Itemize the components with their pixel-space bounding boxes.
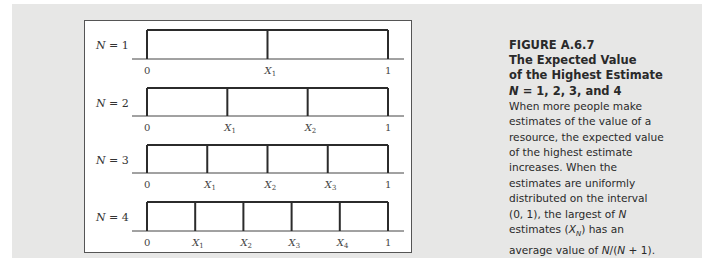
tick-label: X2 [304,122,317,135]
tick-label: 0 [144,122,150,133]
caption-line: resource, the expected value [509,130,689,145]
row-label: N = 3 [95,154,129,167]
tick-label: 1 [385,122,391,133]
caption-line: average value of N/(N + 1). [509,243,689,258]
caption-line: increases. When the [509,160,689,175]
tick-label: X2 [264,179,277,192]
tick-label: 0 [144,65,150,76]
tick-label: 1 [385,65,391,76]
tick-label: X2 [239,237,252,250]
tick-label: X3 [288,237,301,250]
caption-body: When more people makeestimates of the va… [509,99,689,258]
tick-label: 0 [144,179,150,190]
caption-line: estimates of the value of a [509,114,689,129]
tick-label: 0 [144,237,150,248]
row-label: N = 1 [95,39,129,52]
tick-label: X1 [203,179,216,192]
caption-line: estimates are uniformly [509,176,689,191]
row-label: N = 2 [95,97,129,110]
figure-title-line-2: of the Highest Estimate [509,68,689,83]
figure-title-line-1: The Expected Value [509,53,689,68]
caption-line: of the highest estimate [509,145,689,160]
caption-line: distributed on the interval [509,191,689,206]
caption-line: (0, 1), the largest of N [509,207,689,222]
figure-title-line-3: N = 1, 2, 3, and 4 [509,84,689,99]
caption-line: When more people make [509,99,689,114]
tick-label: X4 [336,237,349,250]
tick-label: 1 [385,179,391,190]
tick-label: X3 [324,179,337,192]
figure-caption: FIGURE A.6.7 The Expected Value of the H… [509,38,689,258]
tick-label: X1 [223,122,236,135]
tick-label: X1 [191,237,204,250]
caption-line: estimates (XN) has an [509,222,689,243]
figure-number: FIGURE A.6.7 [509,38,689,53]
tick-label: 1 [385,237,391,248]
row-label: N = 4 [95,211,129,224]
tick-label: X1 [264,65,277,78]
